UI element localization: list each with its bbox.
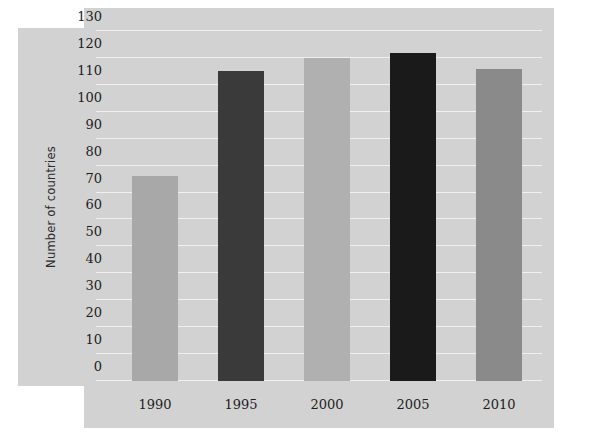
y-axis-tick-label: 90 <box>85 116 102 131</box>
y-axis-tick-label: 80 <box>85 143 102 158</box>
y-axis-tick-label: 130 <box>77 9 102 24</box>
bar-chart-figure: Number of countries 01020304050607080901… <box>0 0 595 437</box>
bar <box>218 71 264 381</box>
x-axis-tick-label: 2000 <box>310 397 343 412</box>
y-axis-tick-label: 60 <box>85 197 102 212</box>
gridline <box>96 30 542 31</box>
x-axis-tick-label: 1995 <box>224 397 257 412</box>
y-axis-tick-label: 120 <box>77 35 102 50</box>
y-axis-tick-label: 70 <box>85 170 102 185</box>
y-axis-tick-label: 0 <box>94 359 102 374</box>
y-axis-tick-label: 40 <box>85 251 102 266</box>
x-axis-tick-label: 2010 <box>482 397 515 412</box>
y-axis-title: Number of countries <box>44 146 58 268</box>
x-axis-tick-label: 2005 <box>396 397 429 412</box>
plot-area: 0102030405060708090100110120130 19901995… <box>112 31 542 381</box>
y-axis-tick-label: 30 <box>85 278 102 293</box>
y-axis-tick-label: 20 <box>85 305 102 320</box>
bar <box>304 58 350 381</box>
y-axis-tick-label: 110 <box>77 62 102 77</box>
bar <box>476 69 522 381</box>
bar <box>132 176 178 381</box>
y-axis-tick-label: 10 <box>85 332 102 347</box>
y-axis-tick-label: 50 <box>85 224 102 239</box>
bar <box>390 53 436 381</box>
y-axis-title-container: Number of countries <box>18 28 84 386</box>
x-axis-tick-label: 1990 <box>138 397 171 412</box>
y-axis-tick-label: 100 <box>77 89 102 104</box>
